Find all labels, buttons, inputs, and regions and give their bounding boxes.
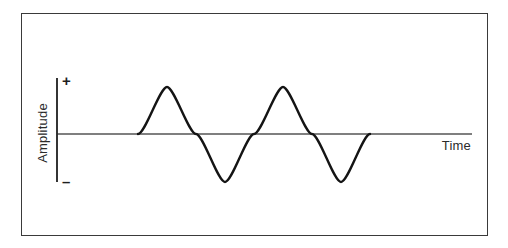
waveform-plot: + – Amplitude Time [0, 0, 508, 248]
negative-amplitude-marker: – [62, 173, 70, 190]
waveform-figure: + – Amplitude Time [0, 0, 508, 248]
y-axis-label: Amplitude [35, 103, 50, 163]
x-axis-label: Time [442, 138, 471, 153]
positive-amplitude-marker: + [62, 72, 71, 89]
